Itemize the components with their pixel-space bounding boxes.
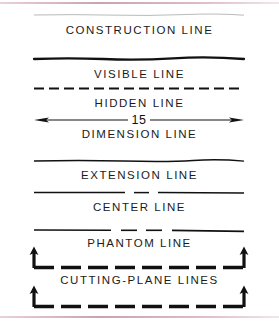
construction-line-label: CONSTRUCTION LINE: [0, 24, 279, 36]
visible-line-graphic: [33, 52, 245, 66]
hidden-line-graphic: [33, 82, 245, 96]
dimension-value: 15: [132, 113, 147, 127]
extension-line-label: EXTENSION LINE: [0, 169, 279, 181]
cutting-plane-lower-graphic: [25, 284, 253, 310]
dimension-line-label: DIMENSION LINE: [0, 128, 279, 140]
scan-edge-bottom: [0, 316, 279, 318]
extension-line-graphic: [33, 154, 245, 168]
center-line-graphic: [33, 186, 245, 200]
center-line-label: CENTER LINE: [0, 201, 279, 213]
construction-line-graphic: [33, 8, 245, 22]
hidden-line-label: HIDDEN LINE: [0, 97, 279, 109]
visible-line-label: VISIBLE LINE: [0, 68, 279, 80]
scan-edge-top: [0, 2, 279, 4]
phantom-line-graphic: [33, 224, 245, 238]
line-types-chart-sheet: CONSTRUCTION LINE VISIBLE LINE HIDDEN LI…: [0, 0, 279, 321]
cutting-plane-upper-graphic: [25, 246, 253, 270]
dimension-line-graphic: 15: [33, 112, 245, 126]
